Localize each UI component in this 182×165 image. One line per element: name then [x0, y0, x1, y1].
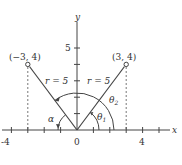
- x-tick-label-0: 0: [74, 137, 80, 147]
- alpha-arrowhead-icon: [56, 124, 60, 129]
- radius-label-left: r = 5: [45, 76, 69, 86]
- x-tick-label-neg4: -4: [1, 137, 10, 147]
- x-tick-label-4: 4: [139, 137, 145, 147]
- theta1-label: θ1: [97, 112, 106, 123]
- diagram-canvas: y x -4 0 4 5 (−3, 4) (3, 4) r = 5 r = 5 …: [0, 0, 182, 165]
- polar-coordinates-diagram: y x -4 0 4 5 (−3, 4) (3, 4) r = 5 r = 5 …: [0, 0, 182, 165]
- radius-label-right: r = 5: [87, 76, 111, 86]
- y-tick-label-5: 5: [65, 43, 71, 53]
- alpha-label: α: [48, 114, 54, 124]
- point-label-right: (3, 4): [112, 52, 136, 62]
- theta2-label: θ2: [109, 95, 118, 106]
- point-3-4: [124, 62, 128, 66]
- y-axis-label: y: [74, 12, 81, 22]
- point-neg3-4: [26, 62, 30, 66]
- x-axis-label: x: [172, 125, 177, 135]
- alpha-arc: [58, 115, 66, 130]
- point-label-left: (−3, 4): [9, 52, 41, 62]
